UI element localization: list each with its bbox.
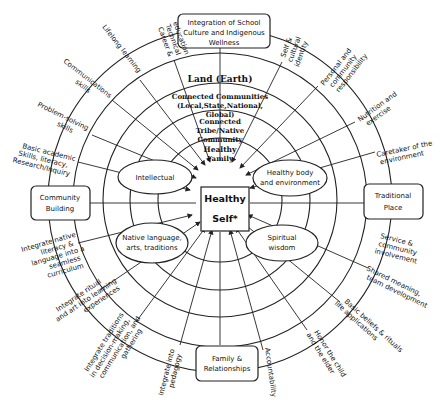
svg-text:Connected Communities: Connected Communities (172, 92, 268, 101)
svg-text:Native language,: Native language, (122, 234, 182, 242)
svg-text:Relationships: Relationships (204, 365, 251, 373)
svg-text:Integration of School: Integration of School (187, 19, 260, 27)
wellness-diagram: Land (Earth) Connected Communities (Loca… (0, 0, 440, 413)
ellipse-spiritual: Spiritual wisdom (246, 225, 318, 261)
ellipse-intellectual: Intellectual (118, 160, 192, 194)
svg-text:arts, traditions: arts, traditions (126, 244, 178, 252)
svg-text:Lifelong learning: Lifelong learning (100, 23, 142, 74)
svg-text:wisdom: wisdom (269, 244, 296, 252)
svg-text:Traditional: Traditional (374, 192, 412, 200)
svg-text:Culture and Indigenous: Culture and Indigenous (183, 29, 265, 37)
svg-text:Connected: Connected (199, 117, 241, 126)
right-box-traditional-place: Traditional Place (364, 184, 423, 219)
svg-text:Spiritual: Spiritual (267, 234, 296, 242)
svg-text:Healthy body: Healthy body (267, 169, 314, 177)
ellipse-healthy-body: Healthy body and environment (253, 160, 327, 196)
top-box-integration: Integration of School Culture and Indige… (178, 14, 270, 48)
svg-text:Tribe/Native: Tribe/Native (196, 126, 245, 135)
ellipse-native-language: Native language, arts, traditions (116, 223, 188, 263)
center-box-healthy-self: Healthy Self* (201, 187, 249, 231)
svg-text:Accountability: Accountability (263, 347, 278, 397)
left-box-community-building: Community Building (31, 186, 90, 220)
svg-text:Community: Community (40, 194, 81, 202)
svg-text:Wellness: Wellness (209, 39, 240, 47)
svg-text:and environment: and environment (260, 179, 320, 187)
svg-text:Intellectual: Intellectual (135, 174, 174, 182)
svg-text:Family &: Family & (212, 355, 243, 363)
svg-text:Community: Community (197, 135, 243, 144)
svg-text:Healthy: Healthy (204, 193, 246, 204)
svg-text:Self*: Self* (212, 213, 238, 224)
bottom-box-family-relationships: Family & Relationships (196, 346, 258, 381)
svg-text:Basic beliefs & rituals: Basic beliefs & rituals (343, 298, 405, 355)
svg-text:Healthy: Healthy (204, 145, 237, 154)
svg-text:Building: Building (46, 205, 74, 213)
svg-text:Family: Family (207, 154, 234, 163)
svg-text:(Local,State,National,: (Local,State,National, (177, 101, 263, 110)
ring-label-land: Land (Earth) (188, 74, 253, 84)
svg-text:Place: Place (384, 204, 403, 212)
